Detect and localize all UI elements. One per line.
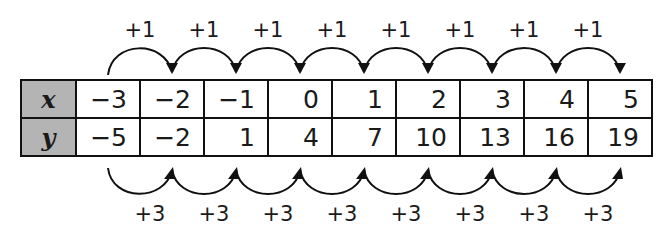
arrow-arc-icon (428, 48, 492, 72)
increment-label-x: +1 (445, 18, 476, 42)
arrow-arc-icon (108, 48, 172, 75)
arrowhead-up-icon (420, 167, 431, 179)
x-cell: −2 (140, 80, 204, 118)
increment-label-x: +1 (573, 18, 604, 42)
increment-label-x: +1 (189, 18, 220, 42)
x-cell: 3 (460, 80, 524, 118)
y-cell: 10 (396, 118, 460, 156)
arrowhead-down-icon (230, 63, 242, 74)
y-row-header: y (21, 118, 76, 156)
arrowhead-down-icon (614, 63, 626, 74)
y-row: y −5 −2 1 4 7 10 13 16 19 (21, 118, 652, 156)
arrowhead-up-icon (356, 167, 367, 179)
y-cell: 13 (460, 118, 524, 156)
y-cell: 4 (268, 118, 332, 156)
x-cell: 4 (524, 80, 588, 118)
increment-label-y: +3 (199, 202, 230, 226)
arrowhead-up-icon (228, 167, 239, 179)
arrow-arc-icon (492, 170, 556, 194)
function-table-diagram: +1 +1 +1 +1 +1 +1 +1 +1 x −3 −2 −1 0 1 2… (0, 0, 668, 233)
increment-label-y: +3 (135, 202, 166, 226)
y-cell: 7 (332, 118, 396, 156)
arrowhead-up-icon (164, 167, 175, 179)
arrowhead-down-icon (486, 63, 498, 74)
arrow-arc-icon (300, 48, 364, 72)
arrowhead-down-icon (166, 63, 178, 74)
x-cell: 5 (588, 80, 652, 118)
arrowhead-down-icon (422, 63, 434, 74)
arrow-arc-icon (364, 170, 428, 194)
arrowhead-up-icon (612, 167, 623, 179)
arrow-arc-icon (492, 48, 556, 72)
arrowhead-up-icon (548, 167, 559, 179)
y-cell: 16 (524, 118, 588, 156)
arrow-arc-icon (364, 48, 428, 72)
x-cell: 2 (396, 80, 460, 118)
arrowhead-down-icon (358, 63, 370, 74)
xy-table: x −3 −2 −1 0 1 2 3 4 5 y −5 −2 1 4 7 10 … (20, 79, 653, 157)
arrow-arc-icon (172, 48, 236, 72)
increment-label-x: +1 (381, 18, 412, 42)
x-cell: −1 (204, 80, 268, 118)
y-cell: −5 (76, 118, 140, 156)
increment-label-y: +3 (263, 202, 294, 226)
arrow-arc-icon (236, 48, 300, 72)
increment-label-y: +3 (519, 202, 550, 226)
arrow-arc-icon (428, 170, 492, 194)
arrow-arc-icon (236, 170, 300, 194)
y-cell: 19 (588, 118, 652, 156)
arrow-arc-icon (556, 170, 620, 194)
arrowhead-down-icon (294, 63, 306, 74)
arrowhead-up-icon (484, 167, 495, 179)
increment-label-y: +3 (455, 202, 486, 226)
arrowhead-down-icon (550, 63, 562, 74)
y-cell: −2 (140, 118, 204, 156)
y-cell: 1 (204, 118, 268, 156)
increment-label-x: +1 (317, 18, 348, 42)
bottom-arrowheads (164, 167, 623, 179)
x-cell: 0 (268, 80, 332, 118)
increment-label-x: +1 (125, 18, 156, 42)
arrow-arc-icon (108, 168, 172, 194)
x-row-header: x (21, 80, 76, 118)
arrow-arc-icon (556, 48, 620, 72)
x-cell: 1 (332, 80, 396, 118)
top-arrowheads (166, 63, 626, 74)
increment-label-x: +1 (253, 18, 284, 42)
arrow-arc-icon (300, 170, 364, 194)
increment-label-y: +3 (391, 202, 422, 226)
arrowhead-up-icon (292, 167, 303, 179)
x-row: x −3 −2 −1 0 1 2 3 4 5 (21, 80, 652, 118)
x-cell: −3 (76, 80, 140, 118)
increment-label-x: +1 (509, 18, 540, 42)
increment-label-y: +3 (583, 202, 614, 226)
increment-label-y: +3 (327, 202, 358, 226)
arrow-arc-icon (172, 170, 236, 194)
